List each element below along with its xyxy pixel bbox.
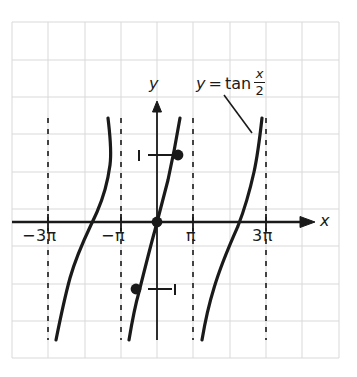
point-half-pi	[173, 150, 184, 161]
y-axis-arrow	[153, 101, 162, 112]
fraction-numerator: x	[255, 67, 265, 81]
x-tick-label-pi: π	[186, 228, 196, 244]
x-tick-label-3pi: 3π	[252, 228, 273, 244]
tangent-curves	[56, 118, 262, 340]
x-tick-label-neg-pi: −π	[101, 228, 125, 244]
equation-equals: =	[208, 74, 221, 93]
figure-page: y = tan x 2 y x −3π −π π 3π	[0, 0, 357, 377]
y-axis-label: y	[149, 76, 158, 92]
label-leader-line	[224, 95, 252, 133]
grid-lines	[12, 22, 339, 358]
x-axis-arrow	[300, 217, 315, 228]
equation-fraction: x 2	[254, 67, 265, 97]
tangent-graph	[0, 0, 357, 377]
curve-branch-center	[129, 118, 180, 340]
equation-function: tan	[225, 74, 251, 93]
fraction-denominator: 2	[254, 84, 264, 98]
x-axis-label: x	[320, 213, 329, 229]
equation-y: y	[196, 74, 205, 93]
point-neg-half-pi	[131, 284, 142, 295]
point-origin	[152, 217, 163, 228]
equation-label: y = tan x 2	[196, 68, 265, 98]
x-tick-label-neg-3pi: −3π	[22, 228, 57, 244]
